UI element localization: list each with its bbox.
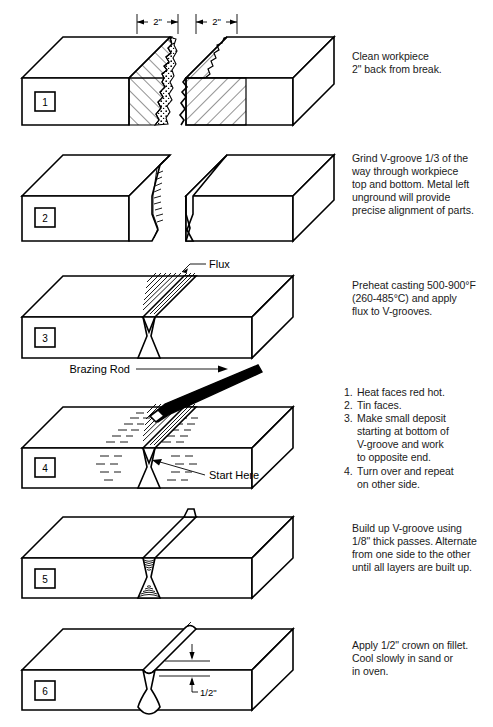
caption-line: until all layers are built up. bbox=[352, 561, 493, 574]
callout-brazing-rod: Brazing Rod bbox=[69, 363, 228, 375]
caption-line: 2" back from break. bbox=[352, 63, 492, 76]
list-item: 3. Make small deposit starting at bottom… bbox=[344, 412, 493, 464]
figure-step-2: 2 bbox=[0, 140, 340, 245]
step-number-6: 6 bbox=[42, 686, 48, 697]
caption-line: Clean workpiece bbox=[352, 50, 492, 63]
list-text: Make small deposit bbox=[357, 412, 446, 424]
list-number: 1. bbox=[344, 386, 353, 399]
dimension-label-right: 2" bbox=[212, 16, 221, 27]
caption-line: flux to V-grooves. bbox=[352, 305, 493, 318]
list-item: 1. Heat faces red hot. bbox=[344, 386, 493, 399]
step-number-1: 1 bbox=[42, 97, 48, 108]
panel-step-6: 1/2" 6 Apply 1/2" crown on fillet. Cool … bbox=[0, 608, 493, 727]
caption-line: Apply 1/2" crown on fillet. bbox=[352, 639, 493, 652]
list-item: 4. Turn over and repeat on other side. bbox=[344, 465, 493, 491]
caption-step-4: 1. Heat faces red hot. 2. Tin faces. 3. … bbox=[344, 386, 493, 491]
caption-step-2: Grind V-groove 1/3 of the way through wo… bbox=[352, 152, 493, 217]
caption-step-4-list: 1. Heat faces red hot. 2. Tin faces. 3. … bbox=[344, 386, 493, 491]
dimension-2in-right: 2" bbox=[196, 14, 237, 34]
panel-step-1: 2" 2" 1 Clean workpiece 2" back from bre… bbox=[0, 0, 493, 128]
list-text: V-groove and work bbox=[357, 438, 444, 450]
caption-line: 1/8" thick passes. Alternate bbox=[352, 535, 493, 548]
list-text: Tin faces. bbox=[357, 399, 402, 411]
caption-line: top and bottom. Metal left bbox=[352, 178, 493, 191]
block4-front bbox=[22, 448, 252, 488]
step-number-4: 4 bbox=[42, 463, 48, 474]
caption-step-3: Preheat casting 500-900°F (260-485°C) an… bbox=[352, 279, 493, 318]
list-number: 4. bbox=[344, 465, 353, 478]
step-number-5: 5 bbox=[42, 574, 48, 585]
panel-step-5: 5 Build up V-groove using 1/8" thick pas… bbox=[0, 496, 493, 606]
caption-step-5: Build up V-groove using 1/8" thick passe… bbox=[352, 522, 493, 574]
step-number-box-2: 2 bbox=[35, 208, 55, 227]
figure-step-4: Brazing Rod Start Here 4 bbox=[0, 358, 340, 493]
figure-step-6: 1/2" 6 bbox=[0, 608, 340, 727]
caption-step-6: Apply 1/2" crown on fillet. Cool slowly … bbox=[352, 639, 493, 678]
callout-start-here-label: Start Here bbox=[209, 469, 259, 481]
dimension-label-left: 2" bbox=[153, 16, 162, 27]
step-number-box-6: 6 bbox=[35, 681, 55, 700]
list-text: starting at bottom of bbox=[357, 425, 449, 437]
block5-front bbox=[22, 558, 252, 598]
caption-line: Cool slowly in sand or bbox=[352, 652, 493, 665]
list-text: on other side. bbox=[357, 478, 420, 490]
caption-step-1: Clean workpiece 2" back from break. bbox=[352, 50, 492, 76]
caption-line: in oven. bbox=[352, 665, 493, 678]
step-number-box-1: 1 bbox=[35, 92, 55, 111]
list-item: 2. Tin faces. bbox=[344, 399, 493, 412]
caption-line: way through workpiece bbox=[352, 165, 493, 178]
panel-step-2: 2 Grind V-groove 1/3 of the way through … bbox=[0, 140, 493, 245]
block5-crown-bead bbox=[184, 509, 196, 517]
step-number-box-4: 4 bbox=[35, 458, 55, 477]
step-number-box-3: 3 bbox=[35, 328, 55, 347]
dimension-2in-left: 2" bbox=[137, 14, 178, 34]
figure-step-5: 5 bbox=[0, 496, 340, 606]
figure-step-3: Flux 3 bbox=[0, 252, 340, 362]
list-text: Heat faces red hot. bbox=[357, 386, 445, 398]
panel-step-3: Flux 3 Preheat casting 500-900°F (260-48… bbox=[0, 252, 493, 362]
step-number-3: 3 bbox=[42, 333, 48, 344]
clean-zone-front-right bbox=[186, 78, 246, 125]
figure-step-1: 2" 2" 1 bbox=[0, 0, 340, 128]
list-number: 2. bbox=[344, 399, 353, 412]
block2-right-front bbox=[186, 196, 293, 241]
block6-front bbox=[22, 670, 252, 710]
caption-line: precise alignment of parts. bbox=[352, 204, 493, 217]
callout-flux-label: Flux bbox=[209, 258, 230, 270]
caption-line: Grind V-groove 1/3 of the bbox=[352, 152, 493, 165]
dimension-label-half-inch: 1/2" bbox=[200, 687, 217, 698]
caption-line: Build up V-groove using bbox=[352, 522, 493, 535]
step-number-2: 2 bbox=[42, 213, 48, 224]
caption-line: (260-485°C) and apply bbox=[352, 292, 493, 305]
callout-brazing-rod-label: Brazing Rod bbox=[69, 363, 130, 375]
caption-line: Preheat casting 500-900°F bbox=[352, 279, 493, 292]
caption-line: unground will provide bbox=[352, 191, 493, 204]
caption-line: from one side to the other bbox=[352, 548, 493, 561]
list-text: Turn over and repeat bbox=[357, 465, 454, 477]
step-number-box-5: 5 bbox=[35, 569, 55, 588]
list-text: to opposite end. bbox=[357, 451, 431, 463]
callout-flux: Flux bbox=[182, 258, 230, 273]
list-number: 3. bbox=[344, 412, 353, 425]
panel-step-4: Brazing Rod Start Here 4 1. Heat faces r… bbox=[0, 358, 493, 493]
procedure-sheet: 2" 2" 1 Clean workpiece 2" back from bre… bbox=[0, 0, 493, 727]
block3-front bbox=[22, 317, 252, 358]
